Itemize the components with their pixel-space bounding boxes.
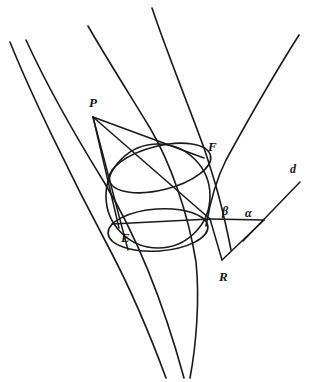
label-line-d: d xyxy=(290,163,296,175)
label-point-r: R xyxy=(219,270,228,283)
segment-T-right-to-R xyxy=(210,219,222,260)
tangent-lines-group xyxy=(93,117,210,250)
label-point-f: F xyxy=(208,140,217,153)
generator-right-curve xyxy=(152,8,231,250)
generator-middle-curve xyxy=(88,26,198,378)
label-angle-beta: β xyxy=(222,205,228,217)
label-point-e: E xyxy=(121,231,130,244)
diagram-svg xyxy=(0,0,310,382)
tangent-P-to-F-line xyxy=(93,117,204,158)
label-angle-alpha: α xyxy=(245,207,252,219)
geometry-diagram-canvas: P F E R d β α xyxy=(0,0,310,382)
cone-generators-group xyxy=(10,8,299,378)
tangent-P-to-T-right-line xyxy=(93,117,210,219)
segment-T-right-to-V-alpha xyxy=(210,219,264,220)
label-point-p: P xyxy=(89,96,97,109)
